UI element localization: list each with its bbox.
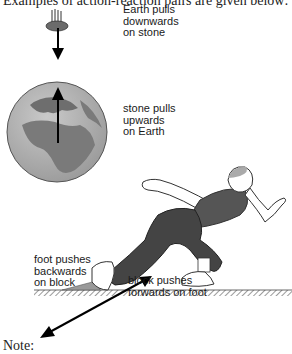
label-stone-pulls-earth: stone pulls upwards on Earth: [123, 103, 176, 138]
label-line: stone pulls: [123, 103, 176, 115]
runner-illustration: [92, 167, 286, 290]
label-line: forwards on foot: [128, 287, 207, 299]
label-line: on stone: [123, 27, 179, 39]
stone-icon: [46, 9, 68, 31]
label-line: foot pushes: [34, 254, 91, 266]
note-heading: Note:: [3, 338, 34, 354]
label-block-pushes-foot: block pushes forwards on foot: [128, 275, 207, 298]
arrow-down-icon: [52, 28, 64, 60]
label-line: block pushes: [128, 275, 207, 287]
label-line: on block: [34, 277, 91, 289]
label-foot-pushes-block: foot pushes backwards on block: [34, 254, 91, 289]
label-earth-pulls-stone: Earth pulls downwards on stone: [123, 4, 179, 39]
label-line: Earth pulls: [123, 4, 179, 16]
label-line: on Earth: [123, 126, 176, 138]
